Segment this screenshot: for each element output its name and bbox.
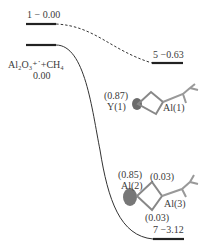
- al2-atom-label: Al(2): [121, 180, 143, 191]
- energy-diagram-canvas: [0, 0, 212, 251]
- al2-charge: (0.85): [118, 169, 142, 180]
- dashed-connector: [56, 24, 152, 63]
- reactant-label: Al₂O₃⁺˙+CH₄: [8, 59, 64, 70]
- level-7-label: 7 −3.12: [153, 224, 184, 235]
- al3-atom-label: Al(3): [164, 198, 186, 209]
- level-1-label: 1 − 0.00: [27, 9, 60, 20]
- bottom-charge: (0.03): [145, 212, 169, 223]
- al1-atom-label: Al(1): [163, 102, 185, 113]
- solid-connector: [56, 45, 153, 239]
- y1-atom-label: Y(1): [107, 101, 126, 112]
- y1-charge: (0.87): [104, 90, 128, 101]
- top-charge: (0.03): [150, 171, 174, 182]
- level-5-label: 5 −0.63: [153, 49, 184, 60]
- reactant-energy: 0.00: [33, 70, 51, 81]
